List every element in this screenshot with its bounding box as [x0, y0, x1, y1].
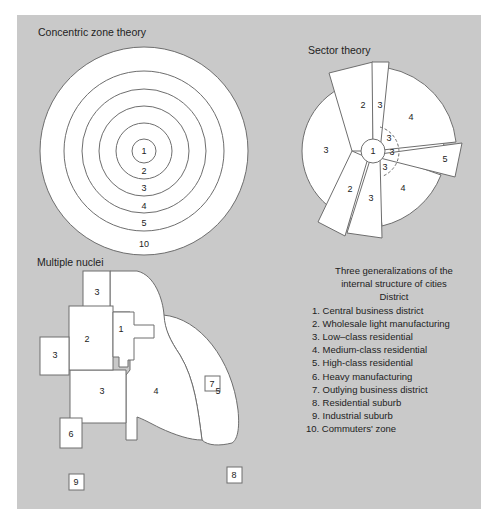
nuclei-label-3-top: 3: [94, 287, 99, 297]
legend-item: 3. Low–class residential: [312, 330, 484, 343]
legend-item: 5. High-class residential: [312, 356, 484, 369]
nuclei-title: Multiple nuclei: [37, 256, 104, 268]
sector-label-3-dash-top: 3: [386, 133, 391, 143]
zone-label-3: 3: [141, 183, 146, 193]
nuclei-label-4: 4: [153, 386, 158, 396]
nuclei-label-2: 2: [84, 334, 89, 344]
legend-heading-line1: Three generalizations of the: [304, 264, 484, 277]
sector-label-3-dash-mid: 3: [389, 147, 394, 157]
legend-heading-line2: internal structure of cities: [304, 277, 484, 290]
nuclei-label-5: 5: [215, 386, 220, 396]
sector-label-5: 5: [442, 154, 447, 164]
legend-item: 4. Medium-class residential: [312, 343, 484, 356]
sector-title: Sector theory: [308, 44, 370, 56]
nuclei-label-1: 1: [118, 324, 123, 334]
zone-label-5: 5: [141, 218, 146, 228]
concentric-title: Concentric zone theory: [38, 26, 146, 38]
nuclei-label-8: 8: [231, 470, 236, 480]
legend-item: 8. Residential suburb: [312, 396, 484, 409]
zone-label-2: 2: [141, 166, 146, 176]
nuclei-label-6: 6: [68, 429, 73, 439]
legend: Three generalizations of the internal st…: [304, 264, 484, 436]
zone-label-4: 4: [141, 201, 146, 211]
legend-item: 1. Central business district: [312, 304, 484, 317]
zone-label-1: 1: [141, 146, 146, 156]
nuclei-label-9: 9: [73, 477, 78, 487]
legend-item: 2. Wholesale light manufacturing: [312, 317, 484, 330]
sector-label-2-upper: 2: [360, 100, 365, 110]
legend-item: 6. Heavy manufacturing: [312, 370, 484, 383]
legend-subheading: District: [304, 290, 484, 303]
nuclei-region-3-center: [70, 370, 126, 423]
legend-item: 9. Industrial suburb: [312, 409, 484, 422]
legend-list: 1. Central business district 2. Wholesal…: [304, 304, 484, 436]
sector-label-3-left: 3: [323, 145, 328, 155]
nuclei-region-2: [69, 306, 113, 370]
sector-label-4-lower: 4: [400, 183, 405, 193]
sector-label-3-dash-bottom: 3: [382, 162, 387, 172]
nuclei-label-3-left: 3: [52, 350, 57, 360]
sector-label-2-lower: 2: [347, 184, 352, 194]
sector-label-3-lower: 3: [368, 193, 373, 203]
sector-label-3-upper-thin: 3: [377, 100, 382, 110]
legend-item: 10. Commuters' zone: [306, 422, 484, 435]
sector-label-4-upper: 4: [408, 112, 413, 122]
nuclei-label-7: 7: [209, 379, 214, 389]
nuclei-label-3-center: 3: [99, 386, 104, 396]
legend-item: 7. Outlying business district: [312, 383, 484, 396]
zone-label-10: 10: [139, 239, 149, 249]
sector-label-1: 1: [370, 146, 375, 156]
